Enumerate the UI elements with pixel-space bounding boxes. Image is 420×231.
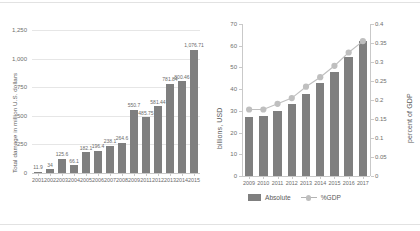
- left-chart-x-tickmark: [74, 173, 75, 176]
- gdp-line-marker: [346, 49, 352, 55]
- left-chart-x-tickmark: [134, 173, 135, 176]
- right-chart-y2-tick-label: 0.3: [375, 59, 395, 65]
- left-chart-x-tick-label: 2015: [182, 178, 206, 183]
- left-chart-x-tickmark: [158, 173, 159, 176]
- right-chart-y2-tickmark: [371, 81, 374, 82]
- left-chart-x-tickmark: [182, 173, 183, 176]
- gdp-line-marker: [246, 106, 252, 112]
- left-chart-x-tickmark: [98, 173, 99, 176]
- bar: [106, 146, 114, 173]
- bar-value-label: 125.6: [49, 152, 75, 157]
- bar: [94, 151, 102, 173]
- right-chart-y-tick-label: 50: [208, 64, 237, 70]
- left-chart-x-tickmark: [194, 173, 195, 176]
- legend-label: Absolute: [265, 194, 291, 201]
- gdp-line-marker: [274, 101, 280, 107]
- right-chart-y-tick-label: 0: [208, 173, 237, 179]
- gdp-line-series: [242, 24, 370, 176]
- gdp-line-marker: [317, 74, 323, 80]
- bar: [178, 81, 186, 173]
- right-chart-y2-tick-label: 0.1: [375, 135, 395, 141]
- bar: [130, 110, 138, 173]
- figure: Total damage in million U.S. dollars 025…: [0, 10, 420, 220]
- left-chart-x-tickmark: [146, 173, 147, 176]
- gdp-line-marker: [289, 95, 295, 101]
- legend-item: %GDP: [301, 194, 341, 201]
- right-chart-y2-axis-title: percent of GDP: [406, 93, 413, 143]
- right-chart-plot-area: [242, 24, 370, 176]
- legend-item: Absolute: [248, 194, 291, 201]
- left-chart-plot-area: 11.934125.666.1182.1196.4238.1264.6550.7…: [32, 30, 200, 173]
- gdp-line-marker: [331, 63, 337, 69]
- right-chart-y-tick-label: 10: [208, 151, 237, 157]
- right-chart-y2-tickmark: [371, 43, 374, 44]
- right-chart-y-tick-label: 20: [208, 130, 237, 136]
- left-chart-x-tickmark: [62, 173, 63, 176]
- left-chart-x-tickmark: [170, 173, 171, 176]
- legend-line-marker-gdp: [301, 194, 317, 201]
- left-chart-y-tick-label: 1,000: [2, 56, 27, 62]
- gdp-line-marker: [360, 38, 366, 44]
- left-chart-gridline: [32, 173, 200, 174]
- right-chart-y-tick-label: 70: [208, 21, 237, 27]
- right-chart-y2-tick-label: 0: [375, 173, 395, 179]
- left-chart-y-tick-label: 1,250: [2, 27, 27, 33]
- top-divider: [0, 2, 420, 3]
- right-chart-y2-tick-label: 0.2: [375, 97, 395, 103]
- bottom-divider: [0, 224, 420, 225]
- legend-label: %GDP: [321, 194, 341, 201]
- right-chart-y2-tick-label: 0.25: [375, 78, 395, 84]
- bar: [82, 152, 90, 173]
- chart-left: Total damage in million U.S. dollars 025…: [2, 10, 208, 215]
- right-chart-y2-tick-label: 0.15: [375, 116, 395, 122]
- right-chart-x-tick-label: 2017: [349, 181, 377, 186]
- left-chart-y-tick-label: 500: [2, 113, 27, 119]
- bar: [166, 84, 174, 173]
- right-chart-y2-tickmark: [371, 24, 374, 25]
- bar: [154, 106, 162, 173]
- right-chart-y2-tick-label: 0.35: [375, 40, 395, 46]
- gdp-line-marker: [260, 106, 266, 112]
- left-chart-x-tickmark: [110, 173, 111, 176]
- right-chart-y-axis-line: [242, 24, 243, 176]
- chart-legend: Absolute%GDP: [248, 194, 341, 201]
- right-chart-y2-tickmark: [371, 100, 374, 101]
- right-chart-y2-tickmark: [371, 157, 374, 158]
- right-chart-y2-tickmark: [371, 138, 374, 139]
- right-chart-y2-axis-line: [370, 24, 371, 176]
- left-chart-y-tick-label: 0: [2, 170, 27, 176]
- left-chart-x-tickmark: [50, 173, 51, 176]
- left-chart-x-tickmark: [86, 173, 87, 176]
- right-chart-y2-tickmark: [371, 176, 374, 177]
- right-chart-y-tick-label: 30: [208, 108, 237, 114]
- left-chart-y-tick-label: 750: [2, 84, 27, 90]
- right-chart-y-tick-label: 60: [208, 43, 237, 49]
- right-chart-x-axis-line: [242, 176, 370, 177]
- left-chart-y-tick-label: 250: [2, 141, 27, 147]
- bar-value-label: 550.7: [121, 103, 147, 108]
- bar: [118, 143, 126, 173]
- right-chart-y2-tick-label: 0.4: [375, 21, 395, 27]
- left-chart-x-tickmark: [38, 173, 39, 176]
- bar-value-label: 1,076.71: [181, 43, 207, 48]
- bar: [190, 50, 198, 173]
- right-chart-y-tick-label: 40: [208, 86, 237, 92]
- right-chart-y2-tick-label: 0.05: [375, 154, 395, 160]
- chart-right: billions, USD percent of GDP 01020304050…: [208, 10, 420, 215]
- gdp-line-marker: [303, 84, 309, 90]
- left-chart-x-tickmark: [122, 173, 123, 176]
- bar: [70, 165, 78, 173]
- legend-swatch-absolute: [248, 194, 261, 201]
- bar: [142, 117, 150, 173]
- right-chart-y2-tickmark: [371, 62, 374, 63]
- right-chart-y2-tickmark: [371, 119, 374, 120]
